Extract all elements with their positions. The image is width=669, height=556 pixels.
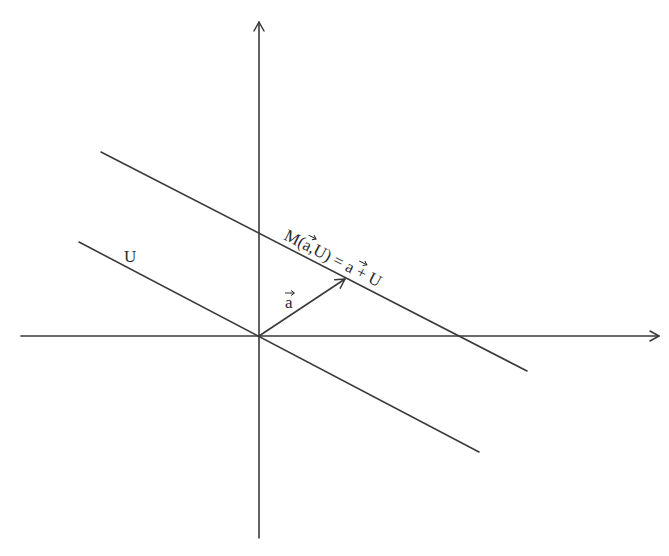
label-m-equation: M(a,U) = a + U xyxy=(281,223,386,291)
vector-diagram: U a M(a,U) = a + U xyxy=(0,0,669,556)
vector-a-arrow xyxy=(259,279,345,336)
svg-text:M(a,U) = a + U: M(a,U) = a + U xyxy=(281,226,385,291)
line-m xyxy=(101,152,527,371)
svg-text:a: a xyxy=(285,293,293,312)
line-u xyxy=(79,242,479,452)
label-vector-a: a xyxy=(285,291,295,313)
label-u: U xyxy=(124,247,136,266)
